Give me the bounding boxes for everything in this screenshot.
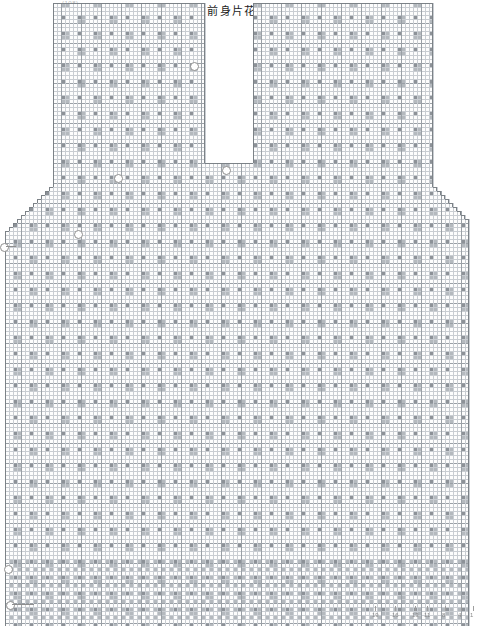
row-number-label: 19: [372, 612, 379, 618]
row-number-tick: [445, 606, 446, 611]
figure-canvas: (108) 图1前身片花样图解 19161311841: [0, 0, 477, 626]
row-number-label: 8: [442, 612, 445, 618]
circle-marker-icon: [114, 174, 123, 183]
row-number-label: 11: [424, 612, 430, 618]
circle-marker-icon: [4, 565, 13, 574]
row-number-label: 4: [458, 612, 461, 618]
row-number-label: 1: [470, 612, 473, 618]
row-number-tick: [375, 606, 376, 611]
row-number-tick: [461, 606, 462, 611]
circle-marker-icon: [6, 601, 15, 610]
circle-marker-icon: [190, 62, 199, 71]
row-number-tick: [473, 606, 474, 611]
leader-line: [6, 246, 16, 247]
leader-line: [12, 604, 34, 605]
stitch-chart-grid: [0, 0, 477, 626]
row-number-tick: [427, 606, 428, 611]
row-number-tick: [415, 606, 416, 611]
row-number-label: 16: [392, 612, 399, 618]
row-number-tick: [395, 606, 396, 611]
row-number-label: 13: [412, 612, 419, 618]
stitch-chart: [0, 0, 477, 626]
circle-marker-icon: [74, 230, 83, 239]
circle-marker-icon: [222, 166, 231, 175]
circle-marker-icon: [0, 243, 9, 252]
